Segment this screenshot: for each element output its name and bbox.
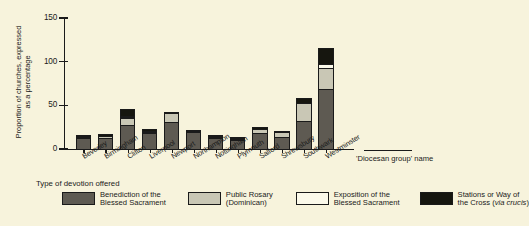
bar-segment[interactable] xyxy=(296,103,311,122)
legend-swatch xyxy=(188,192,221,205)
y-tick-label: 100 xyxy=(44,58,57,66)
plot-area: 050100150 xyxy=(64,18,354,149)
x-axis-title-rule xyxy=(364,150,412,151)
legend-entries: Benediction of theBlessed SacramentPubli… xyxy=(36,191,436,208)
legend-label-line2: Blessed Sacrament xyxy=(100,199,166,208)
legend-item[interactable]: Benediction of theBlessed Sacrament xyxy=(62,191,166,208)
legend-swatch xyxy=(420,192,453,205)
legend-label: Stations or Way ofthe Cross (via crucis) xyxy=(458,191,529,208)
y-tick-label: 50 xyxy=(48,101,57,109)
legend: Type of devotion offered Benediction of … xyxy=(36,179,436,208)
bar-group[interactable] xyxy=(318,48,333,149)
x-axis-title: 'Diocesan group' name xyxy=(356,154,433,163)
legend-label: Public Rosary(Dominican) xyxy=(226,191,273,208)
legend-label: Exposition of theBlessed Sacrament xyxy=(334,191,400,208)
bar-series-container xyxy=(64,18,354,149)
legend-swatch xyxy=(296,192,329,205)
legend-item[interactable]: Exposition of theBlessed Sacrament xyxy=(296,191,400,208)
legend-swatch xyxy=(62,192,95,205)
legend-label: Benediction of theBlessed Sacrament xyxy=(100,191,166,208)
bar-segment[interactable] xyxy=(318,48,333,65)
legend-item[interactable]: Public Rosary(Dominican) xyxy=(188,191,273,208)
y-tick-label: 150 xyxy=(44,14,57,22)
legend-label-line2: the Cross (via crucis) xyxy=(458,199,529,208)
legend-label-line2: Blessed Sacrament xyxy=(334,199,400,208)
y-axis-title-line1: Proportion of churches, xyxy=(14,62,23,138)
y-axis-title: Proportion of churches, expressed as a p… xyxy=(14,0,34,22)
legend-item[interactable]: Stations or Way ofthe Cross (via crucis) xyxy=(420,191,529,208)
y-tick-label: 0 xyxy=(53,145,57,153)
bar-segment[interactable] xyxy=(318,68,333,90)
legend-title: Type of devotion offered xyxy=(36,179,436,188)
legend-label-line2: (Dominican) xyxy=(226,199,273,208)
